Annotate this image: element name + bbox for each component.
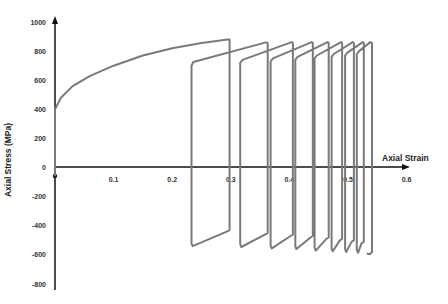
x-tick-label: 0.1: [109, 176, 119, 183]
y-axis-title: Axial Stress (MPa): [3, 123, 13, 197]
y-tick-label: 400: [34, 106, 46, 113]
y-tick-label: -600: [32, 251, 46, 258]
y-axis-arrow-icon: [52, 16, 58, 24]
y-tick-label: -400: [32, 222, 46, 229]
y-tick-label: 1000: [30, 19, 46, 26]
x-tick-label: 0.3: [226, 176, 236, 183]
x-axis-arrow-icon: [402, 164, 410, 170]
x-tick-label: 0.2: [167, 176, 177, 183]
x-tick-label: 0.6: [402, 176, 412, 183]
y-tick-label: 800: [34, 48, 46, 55]
y-tick-label: -800: [32, 281, 46, 288]
stress-strain-curve: [55, 40, 372, 255]
x-axis-tick-labels: 0.10.20.30.40.50.6: [109, 176, 412, 183]
y-tick-label: 200: [34, 135, 46, 142]
x-axis-title: Axial Strain: [382, 153, 429, 163]
y-tick-label: 600: [34, 77, 46, 84]
y-tick-label: -200: [32, 193, 46, 200]
stress-strain-chart: 10008006004002000-200-400-600-800 0.10.2…: [0, 0, 448, 304]
y-tick-label: 0: [42, 164, 46, 171]
y-axis-tick-labels: 10008006004002000-200-400-600-800: [30, 19, 46, 288]
